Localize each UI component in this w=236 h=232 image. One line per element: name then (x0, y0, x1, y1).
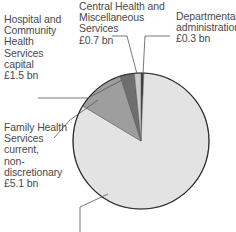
label-central-health-misc: Central Health and Miscellaneous Service… (79, 1, 165, 46)
label-family-health-services: Family Health Services current, non- dis… (4, 122, 67, 189)
leader-main-slice (80, 194, 108, 232)
pie-slices (73, 73, 209, 209)
label-departmental-administration: Departmental administration £0.3 bn (176, 11, 236, 45)
label-hospital-community-capital: Hospital and Community Health Services c… (4, 14, 61, 81)
pie-chart: Hospital and Community Health Services c… (0, 0, 236, 232)
